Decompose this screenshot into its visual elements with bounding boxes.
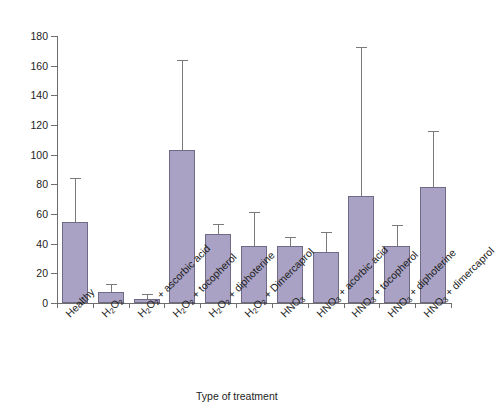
x-axis-tick xyxy=(236,303,237,308)
error-bar xyxy=(111,285,112,292)
x-axis-title: Type of treatment xyxy=(196,390,278,402)
x-axis-tick xyxy=(129,303,130,308)
y-axis-tick xyxy=(51,214,57,215)
x-axis-tick xyxy=(272,303,273,308)
y-axis-tick xyxy=(51,184,57,185)
error-bar-cap xyxy=(285,237,296,238)
y-axis-tick xyxy=(51,273,57,274)
x-axis-tick xyxy=(200,303,201,308)
y-axis-tick-label: 60 xyxy=(2,209,48,220)
error-bar-cap xyxy=(249,212,260,213)
error-bar xyxy=(397,226,398,246)
x-axis-tick xyxy=(415,303,416,308)
y-axis-tick-label: 80 xyxy=(2,179,48,190)
x-axis-tick xyxy=(164,303,165,308)
error-bar-cap xyxy=(428,131,439,132)
y-axis-tick-label: 120 xyxy=(2,120,48,131)
y-axis-tick-label: 140 xyxy=(2,90,48,101)
error-bar-cap xyxy=(392,225,403,226)
error-bar-cap xyxy=(70,178,81,179)
y-axis-tick-label: 100 xyxy=(2,150,48,161)
y-axis-tick xyxy=(51,95,57,96)
y-axis-tick-label: 160 xyxy=(2,61,48,72)
x-axis-tick xyxy=(379,303,380,308)
x-axis-tick xyxy=(93,303,94,308)
error-bar xyxy=(254,213,255,246)
x-axis-tick xyxy=(344,303,345,308)
y-axis-tick-label: 40 xyxy=(2,239,48,250)
error-bar-cap xyxy=(213,224,224,225)
y-axis-tick-label: 20 xyxy=(2,268,48,279)
error-bar-cap xyxy=(177,60,188,61)
y-axis-tick-label: 180 xyxy=(2,31,48,42)
y-axis-tick xyxy=(51,125,57,126)
error-bar xyxy=(75,179,76,222)
x-axis-tick xyxy=(308,303,309,308)
x-axis-tick xyxy=(57,303,58,308)
y-axis-tick xyxy=(51,36,57,37)
error-bar xyxy=(290,238,291,246)
error-bar-cap xyxy=(321,232,332,233)
error-bar xyxy=(326,233,327,252)
y-axis-tick xyxy=(51,66,57,67)
error-bar xyxy=(218,225,219,234)
error-bar xyxy=(433,132,434,188)
error-bar-cap xyxy=(356,47,367,48)
error-bar xyxy=(182,61,183,150)
error-bar-cap xyxy=(106,284,117,285)
y-axis-tick xyxy=(51,155,57,156)
error-bar xyxy=(361,48,362,196)
y-axis-tick xyxy=(51,244,57,245)
x-axis-tick xyxy=(451,303,452,308)
